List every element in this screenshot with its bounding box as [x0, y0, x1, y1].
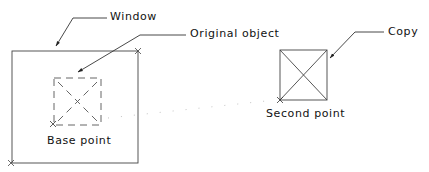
second-point-label: Second point [266, 107, 345, 120]
original-object-label: Original object [190, 27, 279, 40]
window-label: Window [110, 10, 157, 23]
base-point-label: Base point [47, 134, 111, 147]
original-object-leader [78, 35, 186, 72]
copy-object [280, 50, 327, 100]
base-point-mark [50, 121, 56, 127]
window-leader [56, 18, 107, 46]
displacement-path [108, 100, 275, 118]
copy-leader [330, 32, 384, 58]
copy-label: Copy [388, 25, 418, 38]
original-object [54, 78, 101, 125]
